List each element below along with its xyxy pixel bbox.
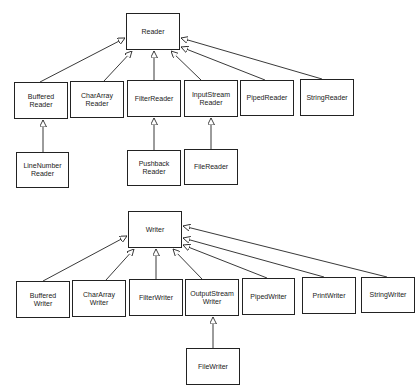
class-box-file-reader: FileReader [184,149,238,185]
class-box-pushback-reader: Pushback Reader [127,150,181,186]
class-box-piped-writer: PipedWriter [242,278,295,315]
class-box-reader: Reader [126,13,180,50]
class-box-output-stream-writer: OutputStream Writer [185,279,239,316]
class-label: LineNumber Reader [23,162,61,178]
class-label: FilterWriter [139,294,173,302]
class-label: FileReader [194,163,228,171]
class-box-file-writer: FileWriter [186,348,240,385]
class-label: CharArray Writer [83,291,115,307]
class-box-filter-writer: FilterWriter [129,279,183,316]
class-box-print-writer: PrintWriter [302,277,356,314]
class-box-line-number-reader: LineNumber Reader [16,152,69,188]
inheritance-arrow [43,236,127,281]
inheritance-arrow [173,249,202,279]
class-label: PipedReader [247,94,288,102]
class-label: Writer [146,226,165,234]
inheritance-arrow [171,51,201,80]
class-label: Buffered Writer [30,292,56,308]
class-label: FilterReader [135,95,174,103]
inheritance-arrow [40,38,125,82]
class-label: Reader [142,28,165,36]
class-box-writer: Writer [128,211,182,248]
class-box-char-array-writer: CharArray Writer [72,280,126,317]
class-box-char-array-reader: CharArray Reader [70,81,124,118]
class-box-buffered-writer: Buffered Writer [16,281,70,318]
class-box-buffered-reader: Buffered Reader [14,82,68,119]
inheritance-edges [0,0,416,392]
class-label: PrintWriter [313,292,346,300]
inheritance-arrow [104,51,132,81]
class-label: CharArray Reader [81,92,113,108]
class-label: StringReader [306,94,347,102]
class-label: PipedWriter [250,293,286,301]
class-label: OutputStream Writer [190,290,234,306]
class-label: StringWriter [370,291,407,299]
inheritance-arrow [181,38,322,79]
inheritance-arrow [183,226,387,277]
class-box-filter-reader: FilterReader [127,80,181,117]
inheritance-arrow [181,47,265,80]
class-label: Buffered Reader [28,93,54,109]
class-label: Pushback Reader [139,160,170,176]
class-label: FileWriter [198,363,228,371]
class-box-string-writer: StringWriter [361,277,415,313]
class-label: InputStream Reader [192,91,230,107]
class-box-input-stream-reader: InputStream Reader [184,80,238,117]
class-box-string-reader: StringReader [300,79,354,116]
inheritance-arrow [106,249,134,280]
class-box-piped-reader: PipedReader [240,80,294,116]
